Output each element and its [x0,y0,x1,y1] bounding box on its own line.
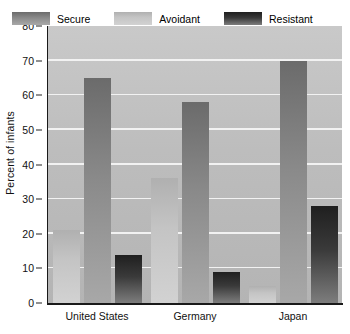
x-axis-label-germany: Germany [173,310,216,322]
bar-resistant-japan [311,206,338,303]
plot-area [48,26,342,303]
legend-swatch-resistant [224,12,262,25]
legend-entry-resistant: Resistant [224,12,337,25]
legend-entry-avoidant: Avoidant [114,12,224,25]
x-axis-label-japan: Japan [279,310,308,322]
y-tick-label-10: 10 [22,262,34,274]
y-tick-label-60: 60 [22,89,34,101]
y-tick-label-70: 70 [22,55,34,67]
legend-swatch-avoidant [114,12,152,25]
y-axis-tick-labels: 01020304050607080 [16,25,42,310]
legend-swatch-secure [12,12,50,25]
bar-avoidant-united-states [53,230,80,303]
bar-resistant-united-states [115,255,142,303]
y-tick-label-40: 40 [22,159,34,171]
bar-chart-figure: Percent of infants 01020304050607080 Sec… [0,0,350,334]
y-tick-label-50: 50 [22,124,34,136]
legend-entry-secure: Secure [12,12,114,25]
y-tick-mark-80 [36,26,42,27]
y-tick-mark-70 [36,60,42,61]
legend-label-resistant: Resistant [269,13,313,25]
legend-label-secure: Secure [57,13,90,25]
bar-avoidant-germany [151,178,178,303]
bar-resistant-germany [213,272,240,303]
y-tick-mark-10 [36,268,42,269]
bar-secure-japan [280,61,307,303]
y-tick-mark-60 [36,95,42,96]
y-tick-label-0: 0 [28,297,34,309]
y-tick-mark-50 [36,129,42,130]
x-axis-label-united-states: United States [65,310,128,322]
y-tick-mark-30 [36,199,42,200]
bar-avoidant-japan [249,286,276,303]
y-axis-title-text: Percent of infants [4,111,16,195]
y-tick-mark-0 [36,303,42,304]
bar-secure-united-states [84,78,111,303]
x-axis-category-labels: United StatesGermanyJapan [48,307,342,329]
bar-secure-germany [182,102,209,303]
y-tick-mark-20 [36,233,42,234]
y-tick-mark-40 [36,164,42,165]
y-tick-label-30: 30 [22,193,34,205]
y-tick-label-20: 20 [22,228,34,240]
legend-label-avoidant: Avoidant [159,13,200,25]
x-axis-line [47,303,343,305]
chart-legend: SecureAvoidantResistant [12,12,337,25]
